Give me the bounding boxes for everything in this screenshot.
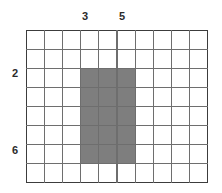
row-label-2: 2 bbox=[4, 68, 18, 79]
grid bbox=[26, 30, 208, 183]
shaded-grid-diagram: 3 5 2 6 bbox=[0, 0, 222, 193]
row-label-6: 6 bbox=[4, 145, 18, 156]
column-label-3: 3 bbox=[76, 11, 94, 22]
grid-lines bbox=[26, 30, 208, 183]
column-label-5: 5 bbox=[113, 11, 131, 22]
